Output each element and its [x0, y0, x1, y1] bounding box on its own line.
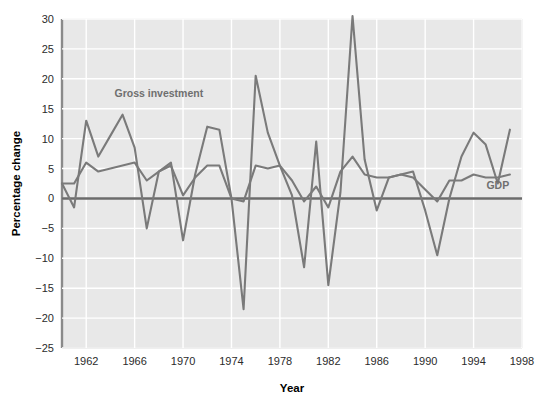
x-tick-label-3: 1974 [219, 355, 243, 367]
y-tick-label-5: 5 [48, 163, 54, 175]
y-axis-title: Percentage change [10, 131, 22, 236]
x-axis-title: Year [280, 382, 305, 394]
y-tick-label-11: −25 [35, 342, 54, 354]
x-tick-label-8: 1994 [461, 355, 485, 367]
x-tick-label-6: 1986 [364, 355, 388, 367]
percentage-change-line-chart: 302520151050−5−10−15−20−25 1962196619701… [0, 0, 538, 401]
x-tick-label-4: 1978 [268, 355, 292, 367]
y-tick-label-6: 0 [48, 192, 54, 204]
y-tick-label-10: −20 [35, 312, 54, 324]
chart-figure: 302520151050−5−10−15−20−25 1962196619701… [0, 0, 538, 401]
y-tick-label-0: 30 [42, 13, 54, 25]
x-tick-label-9: 1998 [510, 355, 534, 367]
y-tick-label-7: −5 [41, 222, 54, 234]
x-tick-label-0: 1962 [74, 355, 98, 367]
y-tick-label-3: 15 [42, 103, 54, 115]
y-tick-label-9: −15 [35, 282, 54, 294]
series-annotation-gross-investment: Gross investment [114, 87, 203, 99]
y-tick-label-2: 20 [42, 73, 54, 85]
y-tick-label-4: 10 [42, 133, 54, 145]
y-tick-label-8: −10 [35, 252, 54, 264]
x-tick-label-5: 1982 [316, 355, 340, 367]
series-annotation-gdp: GDP [486, 179, 509, 191]
x-tick-label-1: 1966 [122, 355, 146, 367]
y-tick-label-1: 25 [42, 43, 54, 55]
x-tick-label-2: 1970 [171, 355, 195, 367]
x-tick-label-7: 1990 [413, 355, 437, 367]
